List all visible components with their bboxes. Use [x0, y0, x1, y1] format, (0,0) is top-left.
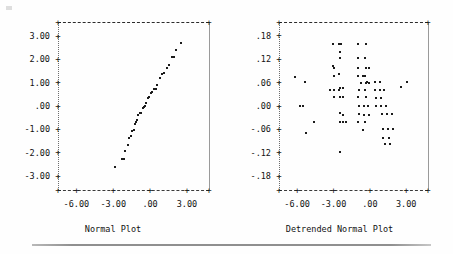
y-axis-tick-label: -3.00 — [2, 171, 50, 181]
data-point — [151, 91, 153, 93]
data-point — [365, 43, 367, 45]
data-point — [339, 96, 341, 98]
data-point — [145, 102, 147, 104]
normal-plot-panel: +++++3.00+2.00+1.00+.00+-1.00+-2.00+-3.0… — [0, 0, 226, 254]
data-point — [357, 75, 359, 77]
data-point — [333, 67, 335, 69]
frame-corner-tick: + — [206, 186, 213, 195]
data-point — [133, 129, 135, 131]
data-point — [342, 121, 344, 123]
data-point — [364, 89, 366, 91]
data-point — [365, 82, 367, 84]
data-point — [128, 137, 130, 139]
y-axis-tick-label: 2.00 — [2, 54, 50, 64]
data-point — [379, 89, 381, 91]
data-point — [159, 77, 161, 79]
data-point — [357, 121, 359, 123]
data-point — [389, 143, 391, 145]
data-point — [305, 132, 307, 134]
x-axis-tick: + — [366, 186, 373, 195]
data-point — [136, 119, 138, 121]
data-point — [357, 67, 359, 69]
data-point — [365, 96, 367, 98]
data-point — [175, 49, 177, 51]
data-point — [368, 67, 370, 69]
data-point — [148, 96, 150, 98]
data-point — [400, 86, 402, 88]
y-axis-tick-label: 3.00 — [2, 31, 50, 41]
data-point — [382, 137, 384, 139]
data-point — [358, 105, 360, 107]
data-point — [342, 96, 344, 98]
data-point — [156, 84, 158, 86]
data-point — [362, 75, 364, 77]
x-axis-tick: + — [110, 186, 117, 195]
data-point — [386, 113, 388, 115]
data-point — [130, 135, 132, 137]
plot-right-border — [428, 22, 429, 190]
data-point — [166, 67, 168, 69]
data-point — [168, 64, 170, 66]
data-point — [339, 51, 341, 53]
plot-right-border — [209, 22, 210, 190]
data-point — [380, 105, 382, 107]
data-point — [339, 112, 341, 114]
data-point — [332, 43, 334, 45]
frame-corner-tick: + — [55, 186, 62, 195]
frame-corner-tick: + — [276, 186, 283, 195]
y-axis-tick: + — [276, 31, 283, 40]
data-point — [367, 105, 369, 107]
x-axis-tick: + — [73, 186, 80, 195]
data-point — [114, 166, 116, 168]
data-point — [375, 105, 377, 107]
y-axis-tick: + — [276, 55, 283, 64]
data-point — [381, 113, 383, 115]
data-point — [339, 121, 341, 123]
data-point — [387, 128, 389, 130]
data-point — [379, 81, 381, 83]
frame-corner-tick: + — [425, 18, 432, 27]
data-point — [391, 113, 393, 115]
x-axis-tick: + — [403, 186, 410, 195]
figure-page: +++++3.00+2.00+1.00+.00+-1.00+-2.00+-3.0… — [0, 0, 453, 254]
y-axis-tick: + — [276, 125, 283, 134]
y-axis-tick-label: -2.00 — [2, 148, 50, 158]
data-point — [363, 105, 365, 107]
plot-title: Normal Plot — [0, 224, 226, 235]
data-point — [144, 105, 146, 107]
data-point — [123, 158, 125, 160]
plot-top-border — [279, 22, 428, 23]
data-point — [357, 43, 359, 45]
data-point — [362, 129, 364, 131]
data-point — [124, 150, 126, 152]
data-point — [135, 121, 137, 123]
data-point — [304, 81, 306, 83]
scan-speck — [6, 6, 12, 10]
data-point — [357, 96, 359, 98]
data-point — [345, 121, 347, 123]
y-axis-tick-label: .06 — [223, 78, 271, 88]
y-axis-tick-label: -.12 — [223, 148, 271, 158]
data-point — [357, 57, 359, 59]
data-point — [294, 76, 296, 78]
y-axis-tick-label: -1.00 — [2, 124, 50, 134]
plot-title: Detrended Normal Plot — [226, 224, 453, 235]
y-axis-tick-label: 1.00 — [2, 78, 50, 88]
data-point — [360, 82, 362, 84]
data-point — [368, 114, 370, 116]
y-axis-tick-label: .12 — [223, 54, 271, 64]
data-point — [302, 105, 304, 107]
x-axis-tick: + — [183, 186, 190, 195]
y-axis-tick: + — [276, 172, 283, 181]
data-point — [137, 114, 139, 116]
y-axis-tick: + — [55, 32, 62, 41]
data-point — [368, 82, 370, 84]
y-axis-tick: + — [276, 78, 283, 87]
data-point — [340, 43, 342, 45]
data-point — [173, 56, 175, 58]
x-axis-tick-label: 3.00 — [384, 199, 428, 209]
data-point — [380, 97, 382, 99]
data-point — [374, 81, 376, 83]
data-point — [385, 105, 387, 107]
data-point — [333, 89, 335, 91]
